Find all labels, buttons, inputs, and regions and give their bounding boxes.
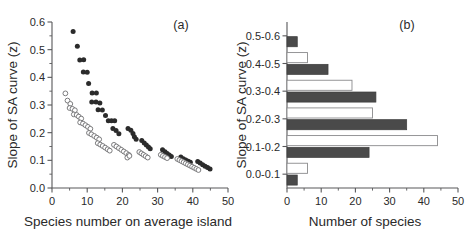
scatter-point-open xyxy=(196,168,201,173)
scatter-x-ticklabels: 01020304050 xyxy=(49,195,234,207)
scatter-y-ticklabel: 0.1 xyxy=(30,154,45,166)
bar-x-axis-title: Number of species xyxy=(309,214,422,229)
scatter-point-filled xyxy=(75,44,80,49)
scatter-point-filled xyxy=(85,70,90,75)
scatter-x-ticklabel: 20 xyxy=(116,195,128,207)
scatter-svg: 0.00.10.20.30.40.50.6 01020304050 Slope … xyxy=(0,0,240,242)
scatter-x-ticklabel: 40 xyxy=(187,195,199,207)
panel-label-b: (b) xyxy=(399,18,414,32)
scatter-point-filled xyxy=(148,146,153,151)
bar-x-ticklabel: 50 xyxy=(452,195,464,207)
bar-filled xyxy=(287,64,328,74)
scatter-point-filled xyxy=(94,91,99,96)
scatter-point-open xyxy=(107,148,112,153)
bar-category-label: 0.1-0.2 xyxy=(246,141,280,153)
bar-filled xyxy=(287,147,369,157)
bar-category-label: 0.2-0.3 xyxy=(246,113,280,125)
scatter-y-ticklabel: 0.5 xyxy=(30,44,45,56)
bar-x-ticklabel: 40 xyxy=(418,195,430,207)
scatter-y-ticklabel: 0.6 xyxy=(30,16,45,28)
bar-open xyxy=(287,136,437,146)
bar-category-label: 0.0-0.1 xyxy=(246,168,280,180)
scatter-y-ticklabel: 0.4 xyxy=(30,71,45,83)
bar-x-ticklabel: 20 xyxy=(349,195,361,207)
bar-category-label: 0.3-0.4 xyxy=(246,85,280,97)
scatter-y-ticklabel: 0.0 xyxy=(30,182,45,194)
scatter-y-ticklabels: 0.00.10.20.30.40.50.6 xyxy=(30,16,45,194)
bar-filled xyxy=(287,37,297,47)
panel-label-a: (a) xyxy=(173,18,188,32)
scatter-point-filled xyxy=(97,101,102,106)
scatter-x-ticklabel: 10 xyxy=(81,195,93,207)
scatter-point-filled xyxy=(100,107,105,112)
bar-x-ticklabels: 01020304050 xyxy=(284,195,464,207)
bar-open xyxy=(287,163,308,173)
scatter-y-ticklabel: 0.3 xyxy=(30,99,45,111)
bar-x-ticklabel: 10 xyxy=(315,195,327,207)
bar-open xyxy=(287,80,352,90)
scatter-point-open xyxy=(165,156,170,161)
scatter-point-filled xyxy=(81,57,86,62)
bar-axes xyxy=(283,22,459,193)
scatter-point-filled xyxy=(103,113,108,118)
bar-filled xyxy=(287,92,376,102)
bar-open xyxy=(287,53,308,63)
scatter-point-open xyxy=(127,154,132,159)
bar-rect-group xyxy=(287,37,437,185)
scatter-point-filled xyxy=(71,29,76,34)
figure-container: 0.00.10.20.30.40.50.6 01020304050 Slope … xyxy=(0,0,472,242)
scatter-point-filled xyxy=(208,166,213,171)
scatter-point-filled xyxy=(112,118,117,123)
bar-svg: 0.0-0.10.1-0.20.2-0.30.3-0.40.4-0.50.5-0… xyxy=(232,0,472,242)
bar-x-ticklabel: 0 xyxy=(284,195,290,207)
bar-open xyxy=(287,108,373,118)
scatter-y-axis-title: Slope of SA curve (z) xyxy=(5,42,20,169)
bar-category-labels: 0.0-0.10.1-0.20.2-0.30.3-0.40.4-0.50.5-0… xyxy=(246,30,280,180)
bar-category-label: 0.5-0.6 xyxy=(246,30,280,42)
scatter-x-ticklabel: 0 xyxy=(49,195,55,207)
scatter-x-axis-title: Species number on average island xyxy=(24,214,232,229)
bar-axis-lines xyxy=(287,22,458,188)
bar-y-axis-title: Slope of SA curve (z) xyxy=(234,42,249,169)
scatter-points-group xyxy=(63,29,213,173)
panel-b-bars: 0.0-0.10.1-0.20.2-0.30.3-0.40.4-0.50.5-0… xyxy=(232,0,472,242)
scatter-x-ticklabel: 30 xyxy=(151,195,163,207)
scatter-y-ticklabel: 0.2 xyxy=(30,127,45,139)
bar-category-label: 0.4-0.5 xyxy=(246,58,280,70)
scatter-point-filled xyxy=(134,137,139,142)
scatter-point-filled xyxy=(116,131,121,136)
bar-x-ticklabel: 30 xyxy=(383,195,395,207)
scatter-point-open xyxy=(63,91,68,96)
bar-filled xyxy=(287,175,297,185)
scatter-point-open xyxy=(145,155,150,160)
panel-a-scatter: 0.00.10.20.30.40.50.6 01020304050 Slope … xyxy=(0,0,240,242)
bar-filled xyxy=(287,120,407,130)
scatter-point-filled xyxy=(86,81,91,86)
